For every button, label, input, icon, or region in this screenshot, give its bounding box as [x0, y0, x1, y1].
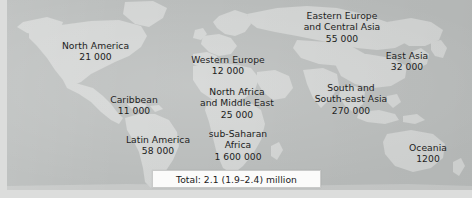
- region-label-east-asia: East Asia 32 000: [371, 50, 443, 73]
- region-value-latin-america: 58 000: [112, 145, 204, 156]
- total-callout-box: Total: 2.1 (1.9–2.4) million: [152, 170, 321, 188]
- region-label-north-africa-middle-east: North Africa and Middle East 25 000: [183, 86, 291, 120]
- region-label-eastern-europe-central-asia: Eastern Europe and Central Asia 55 000: [288, 10, 396, 44]
- region-label-sub-saharan-africa: sub-Saharan Africa 1 600 000: [193, 128, 283, 162]
- region-value-north-africa-middle-east: 25 000: [183, 109, 291, 120]
- region-name-eastern-europe-line2: and Central Asia: [288, 21, 396, 32]
- region-name-sub-saharan-line1: sub-Saharan: [193, 128, 283, 139]
- region-label-oceania: Oceania 1200: [397, 142, 459, 165]
- total-label: Total: 2.1 (1.9–2.4) million: [176, 174, 297, 185]
- region-value-east-asia: 32 000: [371, 61, 443, 72]
- region-name-oceania: Oceania: [397, 142, 459, 153]
- region-name-eastern-europe-line1: Eastern Europe: [288, 10, 396, 21]
- region-name-sub-saharan-line2: Africa: [193, 139, 283, 150]
- page-margin-left: [0, 0, 7, 198]
- region-label-south-and-south-east-asia: South and South-east Asia 270 000: [299, 82, 403, 116]
- region-name-north-africa-line2: and Middle East: [183, 97, 291, 108]
- region-name-western-europe: Western Europe: [180, 54, 276, 65]
- region-label-north-america: North America 21 000: [44, 40, 147, 63]
- region-name-south-asia-line2: South-east Asia: [299, 93, 403, 104]
- region-name-north-africa-line1: North Africa: [183, 86, 291, 97]
- region-name-east-asia: East Asia: [371, 50, 443, 61]
- world-map-figure: North America 21 000 Caribbean 11 000 La…: [0, 0, 472, 198]
- region-name-south-asia-line1: South and: [299, 82, 403, 93]
- region-value-western-europe: 12 000: [180, 65, 276, 76]
- region-value-south-and-south-east-asia: 270 000: [299, 105, 403, 116]
- region-value-eastern-europe-central-asia: 55 000: [288, 33, 396, 44]
- region-name-latin-america: Latin America: [112, 134, 204, 145]
- region-name-caribbean: Caribbean: [95, 94, 173, 105]
- region-value-oceania: 1200: [397, 153, 459, 164]
- region-label-western-europe: Western Europe 12 000: [180, 54, 276, 77]
- region-name-north-america: North America: [44, 40, 147, 51]
- region-value-caribbean: 11 000: [95, 105, 173, 116]
- region-label-caribbean: Caribbean 11 000: [95, 94, 173, 117]
- region-label-latin-america: Latin America 58 000: [112, 134, 204, 157]
- page-margin-bottom: [0, 190, 472, 198]
- region-value-north-america: 21 000: [44, 51, 147, 62]
- region-value-sub-saharan-africa: 1 600 000: [193, 151, 283, 162]
